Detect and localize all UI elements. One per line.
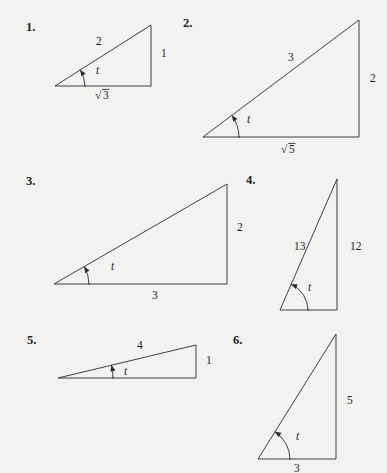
side-label-6-2: 3 [294,462,300,473]
triangle-problem-5: 5.t41 [27,333,212,378]
problem-number-3: 3. [26,174,35,188]
problem-number-5: 5. [27,333,36,347]
problem-number-2: 2. [183,16,192,30]
angle-arc-4 [291,284,308,310]
angle-label-2: t [247,113,251,125]
radical-sign: √ [95,89,102,101]
angle-label-5: t [124,365,128,377]
side-label-1-2: 1 [161,47,167,59]
triangles-diagram: 1.t21√32.t32√53.t234.t13125.t416.t53 [0,0,387,473]
exercise-figure-sheet: 1.t21√32.t32√53.t234.t13125.t416.t53 [0,0,387,473]
problem-number-1: 1. [26,20,35,34]
angle-arc-6 [275,432,290,459]
angle-label-1: t [96,64,100,76]
side-label-4-1: 13 [294,240,306,252]
side-label-4-2: 12 [350,240,362,252]
radicand: 5 [289,143,295,155]
problem-number-4: 4. [246,173,255,187]
side-label-5-1: 4 [137,339,143,351]
triangle-outline-3 [54,184,227,284]
side-label-2-2: 2 [370,72,376,84]
angle-label-3: t [111,260,115,272]
triangle-outline-2 [203,20,359,137]
side-label-6-1: 5 [347,394,353,406]
angle-label-4: t [308,281,312,293]
triangle-problem-1: 1.t21√3 [26,20,167,101]
side-label-1-1: 2 [96,35,102,47]
angle-arrowhead-5 [110,365,115,371]
side-label-3-2: 3 [152,289,158,301]
side-label-3-1: 2 [237,221,243,233]
triangle-problem-2: 2.t32√5 [183,16,376,155]
angle-arrowhead-4 [291,284,298,289]
triangle-outline-1 [55,25,151,86]
angle-arrowhead-2 [232,115,238,121]
radical-sign: √ [281,143,288,155]
triangle-problem-6: 6.t53 [233,333,353,473]
side-label-2-1: 3 [288,51,294,63]
side-label-radical-2-3: √5 [281,143,295,155]
problem-number-6: 6. [233,333,242,347]
angle-label-6: t [296,430,300,442]
triangle-problem-4: 4.t1312 [246,173,362,310]
radicand: 3 [103,89,109,101]
side-label-5-2: 1 [206,354,212,366]
triangle-problem-3: 3.t23 [26,174,243,301]
side-label-radical-1-3: √3 [95,89,109,101]
